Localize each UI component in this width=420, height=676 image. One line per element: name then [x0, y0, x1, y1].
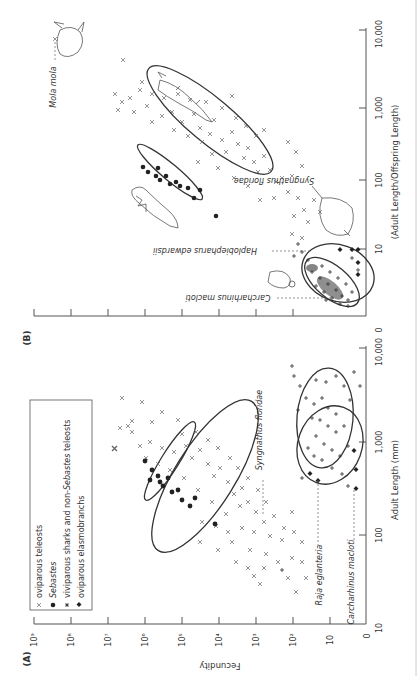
- panel-b-fecundity-ticks: [34, 309, 293, 316]
- panel-a-xlabel: Adult Length (mm): [390, 440, 400, 520]
- annotation-mola-mola: Mola mola: [49, 66, 58, 107]
- tick-fec-1e5: 10⁵: [178, 633, 187, 646]
- tick-b-0: 0: [375, 327, 384, 332]
- teleost-bold-marker: [112, 446, 117, 451]
- legend-item-oviparous-teleosts: oviparous teleosts: [35, 525, 44, 598]
- panel-a-ylabel: Fecundity: [199, 661, 240, 671]
- panel-b-label: (B): [22, 330, 32, 345]
- panel-b: 0 10 100 1,000 10,000 (Adult Length/Offs…: [22, 20, 400, 346]
- tick-len-100: 100: [375, 527, 384, 542]
- tick-fec-1e8: 10⁸: [67, 633, 76, 646]
- cod-drawing: [158, 72, 212, 122]
- shark-ellipse-a: [293, 366, 358, 471]
- panel-b-xlabel: (Adult Length/Offspring Length): [390, 105, 400, 240]
- panel-b-ratio-tick-labels: 0 10 100 1,000 10,000: [375, 20, 384, 333]
- annotation-haplobiepharus: Haplobiepharus edwardsii: [152, 246, 257, 255]
- sebastes-markers-b: [141, 165, 219, 219]
- tick-fec-1e6: 10⁶: [141, 633, 150, 646]
- tick-fec-1e9: 10⁹: [30, 633, 39, 646]
- tick-fec-0: 0: [363, 633, 372, 638]
- annotation-syngnathus-b: Syngnathus floridae: [234, 176, 314, 185]
- elasmo-ellipse-b: [294, 234, 383, 312]
- rockfish-drawing: [132, 187, 178, 228]
- tick-b-100: 100: [375, 172, 384, 187]
- annotation-carcharhinus-a: Carcharhinus macloti: [347, 539, 356, 625]
- teleost-markers-a: [112, 396, 308, 594]
- annotation-syngnathus-a: Syngnathus floridae: [255, 390, 264, 470]
- panel-a: 10⁹ 10⁸ 10⁷ 10⁶ 10⁵ 10⁴ 10³ 10² 10 0 Fec…: [22, 338, 400, 671]
- tick-fec-1e2: 10²: [289, 633, 298, 646]
- legend-asterisk-icon: [65, 603, 69, 607]
- legend-item-viviparous: viviparous sharks and non-Sebastes teleo…: [63, 420, 72, 598]
- annotation-raja: Raja eglanteria: [315, 545, 324, 606]
- panel-b-ratio-ticks: [359, 30, 366, 249]
- tick-b-1000: 1,000: [375, 97, 384, 120]
- legend-item-sebastes: Sebastes: [49, 562, 58, 598]
- mola-mola-marker: [53, 37, 57, 41]
- tick-b-10: 10: [375, 244, 384, 254]
- tick-len-10000: 10,000: [375, 338, 384, 366]
- tick-fec-1e3: 10³: [252, 633, 261, 646]
- tick-fec-1e4: 10⁴: [215, 633, 224, 646]
- teleost-markers-b: [113, 58, 322, 240]
- panel-a-fecundity-tick-labels: 10⁹ 10⁸ 10⁷ 10⁶ 10⁵ 10⁴ 10³ 10² 10 0: [30, 633, 372, 646]
- elasmo-markers-a: [308, 448, 359, 491]
- annotation-carcharhinus-b: Carcharhinus macloti: [185, 293, 271, 302]
- legend-item-oviparous-elasmobranchs: oviparous elasmobranchs: [77, 496, 86, 599]
- panel-a-fecundity-ticks: [34, 617, 330, 624]
- figure: 0 10 100 1,000 10,000 (Adult Length/Offs…: [0, 0, 420, 676]
- tick-b-10000: 10,000: [375, 20, 384, 48]
- tick-fec-1e7: 10⁷: [104, 633, 113, 646]
- panel-a-label: (A): [22, 651, 32, 666]
- tick-fec-10: 10: [326, 635, 335, 645]
- tick-len-1000: 1,000: [375, 431, 384, 454]
- sebastes-ellipse-b: [133, 139, 208, 205]
- seahorse-drawing: [268, 271, 295, 288]
- skate-drawing: [312, 186, 353, 236]
- mola-mola-drawing: [54, 22, 84, 57]
- tick-len-10: 10: [375, 623, 384, 633]
- panel-a-length-tick-labels: 10 100 1,000 10,000: [375, 338, 384, 633]
- legend-dot-icon: [51, 603, 56, 608]
